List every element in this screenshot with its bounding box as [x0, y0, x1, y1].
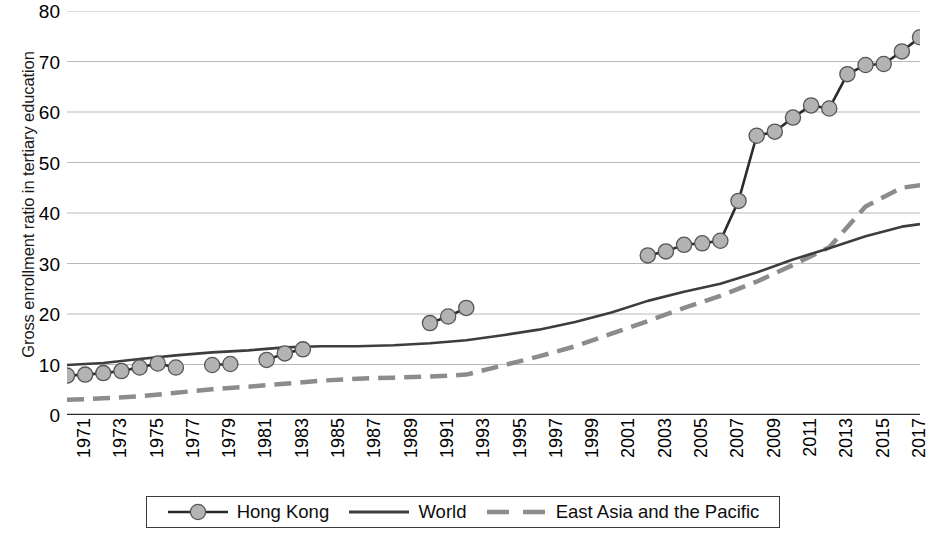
- data-point-marker-hong-kong: [96, 365, 111, 380]
- data-point-marker-hong-kong: [640, 248, 655, 263]
- x-axis-tick-label: 1983: [293, 418, 311, 488]
- data-point-marker-hong-kong: [277, 346, 292, 361]
- x-axis-tick-label: 1989: [402, 418, 420, 488]
- data-point-marker-hong-kong: [749, 128, 764, 143]
- y-axis-tick-label: 0: [20, 406, 60, 425]
- x-axis-tick-label: 1999: [583, 418, 601, 488]
- y-axis-tick-label: 30: [20, 255, 60, 274]
- legend-item-label: Hong Kong: [237, 503, 330, 521]
- data-point-marker-hong-kong: [168, 360, 183, 375]
- y-axis-tick-label: 60: [20, 103, 60, 122]
- data-point-marker-hong-kong: [422, 315, 437, 330]
- data-point-marker-hong-kong: [767, 124, 782, 139]
- x-axis-tick-label: 1985: [329, 418, 347, 488]
- legend-item[interactable]: Hong Kong: [167, 503, 330, 521]
- legend-item[interactable]: East Asia and the Pacific: [486, 503, 760, 521]
- dashed-line-swatch: [486, 503, 548, 521]
- chart-legend: Hong KongWorldEast Asia and the Pacific: [146, 496, 780, 528]
- x-axis-tick-label: 2009: [765, 418, 783, 488]
- data-point-marker-hong-kong: [205, 357, 220, 372]
- x-axis-tick-label: 2001: [619, 418, 637, 488]
- data-point-marker-hong-kong: [804, 98, 819, 113]
- data-point-marker-hong-kong: [676, 237, 691, 252]
- line-circle-marker-swatch: [167, 503, 229, 521]
- x-axis-tick-label: 1997: [547, 418, 565, 488]
- y-axis-tick-label: 70: [20, 53, 60, 72]
- data-point-marker-hong-kong: [840, 67, 855, 82]
- x-axis-tick-label: 1977: [184, 418, 202, 488]
- x-axis-tick-label: 1973: [111, 418, 129, 488]
- x-axis-tick-label: 2007: [728, 418, 746, 488]
- data-point-marker-hong-kong: [132, 360, 147, 375]
- data-point-marker-hong-kong: [858, 57, 873, 72]
- data-point-marker-hong-kong: [713, 233, 728, 248]
- chart-container: Gross enrollment ratio in tertiary educa…: [0, 0, 929, 533]
- data-point-marker-hong-kong: [731, 193, 746, 208]
- y-axis-tick-label: 40: [20, 204, 60, 223]
- chart-svg: [67, 11, 920, 415]
- data-point-marker-hong-kong: [822, 101, 837, 116]
- solid-line-swatch: [348, 503, 410, 521]
- y-axis-tick-label: 50: [20, 154, 60, 173]
- x-axis-tick-label: 1979: [220, 418, 238, 488]
- x-axis-tick-label: 1995: [511, 418, 529, 488]
- data-point-marker-hong-kong: [658, 244, 673, 259]
- legend-marker: [190, 504, 205, 519]
- x-axis-tick-label: 1971: [75, 418, 93, 488]
- x-axis-tick-label: 1975: [148, 418, 166, 488]
- data-point-marker-hong-kong: [223, 356, 238, 371]
- x-axis-tick-label: 2017: [910, 418, 928, 488]
- data-point-marker-hong-kong: [441, 309, 456, 324]
- plot-area: [67, 11, 920, 415]
- x-axis-tick-label: 1991: [438, 418, 456, 488]
- series-line-east-asia-and-the-pacific: [67, 185, 920, 400]
- data-point-marker-hong-kong: [114, 363, 129, 378]
- legend-item[interactable]: World: [348, 503, 466, 521]
- data-point-marker-hong-kong: [78, 367, 93, 382]
- x-axis-tick-label: 1993: [474, 418, 492, 488]
- data-point-marker-hong-kong: [785, 110, 800, 125]
- data-point-marker-hong-kong: [259, 352, 274, 367]
- series-line-world: [67, 224, 920, 365]
- x-axis-tick-labels: 1971197319751977197919811983198519871989…: [67, 418, 920, 488]
- y-axis-tick-label: 80: [20, 2, 60, 21]
- data-point-marker-hong-kong: [150, 356, 165, 371]
- x-axis-tick-label: 2003: [656, 418, 674, 488]
- x-axis-tick-label: 2005: [692, 418, 710, 488]
- y-axis-tick-label: 10: [20, 356, 60, 375]
- x-axis-tick-label: 1981: [256, 418, 274, 488]
- data-point-marker-hong-kong: [295, 342, 310, 357]
- data-point-marker-hong-kong: [459, 300, 474, 315]
- data-point-marker-hong-kong: [894, 44, 909, 59]
- x-axis-tick-label: 2015: [874, 418, 892, 488]
- y-axis-tick-label: 20: [20, 305, 60, 324]
- data-point-marker-hong-kong: [67, 368, 75, 383]
- x-axis-tick-label: 2011: [801, 418, 819, 488]
- y-axis-tick-labels: 80706050403020100: [0, 0, 60, 440]
- x-axis-tick-label: 1987: [365, 418, 383, 488]
- legend-item-label: East Asia and the Pacific: [556, 503, 760, 521]
- x-axis-tick-label: 2013: [837, 418, 855, 488]
- data-point-marker-hong-kong: [695, 236, 710, 251]
- legend-item-label: World: [418, 503, 466, 521]
- data-point-marker-hong-kong: [876, 56, 891, 71]
